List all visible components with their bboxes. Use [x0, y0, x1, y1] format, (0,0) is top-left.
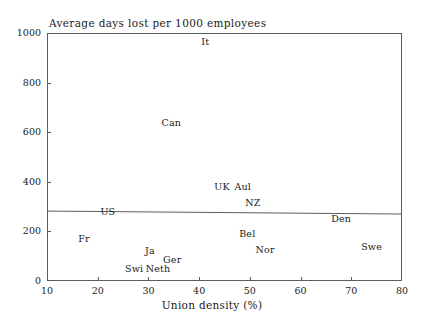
data-point-label: Den — [331, 213, 351, 224]
y-tick-label: 200 — [7, 225, 41, 236]
x-tick-label: 50 — [235, 285, 265, 296]
data-point-label: Nor — [255, 244, 274, 255]
y-tick-label: 800 — [7, 77, 41, 88]
x-tick-mark — [351, 277, 352, 281]
x-tick-mark — [250, 277, 251, 281]
x-tick-label: 30 — [133, 285, 163, 296]
data-point-label: Swi — [125, 263, 143, 274]
data-point-label: Fr — [78, 233, 90, 244]
data-point-label: Neth — [146, 263, 171, 274]
y-tick-mark — [47, 231, 51, 232]
data-point-label: Can — [161, 117, 181, 128]
y-tick-label: 600 — [7, 126, 41, 137]
y-tick-mark — [47, 132, 51, 133]
x-tick-label: 60 — [286, 285, 316, 296]
x-tick-mark — [98, 277, 99, 281]
data-point-label: US — [100, 206, 115, 217]
x-tick-mark — [148, 277, 149, 281]
x-axis-title: Union density (%) — [0, 299, 424, 311]
x-tick-label: 40 — [184, 285, 214, 296]
x-tick-mark — [199, 277, 200, 281]
x-tick-label: 10 — [32, 285, 62, 296]
y-tick-label: 400 — [7, 176, 41, 187]
data-point-label: Aul — [234, 181, 251, 192]
y-tick-mark — [47, 83, 51, 84]
y-tick-mark — [47, 182, 51, 183]
y-tick-label: 1000 — [7, 27, 41, 38]
x-tick-label: 80 — [387, 285, 417, 296]
data-point-label: Swe — [361, 241, 382, 252]
data-point-label: Ja — [145, 245, 155, 256]
data-point-label: NZ — [245, 196, 260, 207]
x-tick-label: 20 — [83, 285, 113, 296]
data-point-label: UK — [214, 181, 230, 192]
scatter-plot-figure: Average days lost per 1000 employees 102… — [0, 0, 424, 325]
data-point-label: It — [201, 35, 209, 46]
x-tick-label: 70 — [336, 285, 366, 296]
y-tick-label: 0 — [7, 275, 41, 286]
chart-title: Average days lost per 1000 employees — [49, 17, 266, 29]
x-tick-mark — [301, 277, 302, 281]
data-point-label: Bel — [239, 227, 255, 238]
regression-line-layer — [47, 33, 402, 281]
